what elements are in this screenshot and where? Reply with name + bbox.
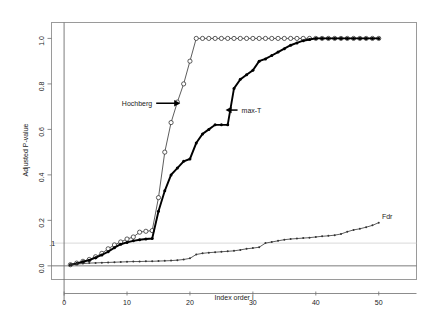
data-point-fdr — [113, 261, 115, 263]
data-point-fdr — [233, 250, 235, 252]
data-point-fdr — [139, 261, 141, 263]
data-point-fdr — [145, 260, 147, 262]
data-point-hochberg — [169, 120, 173, 124]
x-tick-label: 50 — [375, 299, 383, 306]
data-point-max-t — [295, 41, 298, 44]
data-point-hochberg — [226, 36, 230, 40]
x-tick-label: 0 — [62, 299, 66, 306]
data-point-max-t — [88, 259, 91, 262]
data-point-max-t — [113, 246, 116, 249]
data-point-fdr — [283, 239, 285, 241]
data-point-fdr — [334, 234, 336, 236]
data-point-hochberg — [156, 196, 160, 200]
x-axis-title: Index order i — [215, 294, 254, 301]
data-point-max-t — [138, 238, 141, 241]
data-point-fdr — [183, 258, 185, 260]
data-point-fdr — [296, 238, 298, 240]
data-point-fdr — [214, 251, 216, 253]
data-point-max-t — [270, 54, 273, 57]
data-point-fdr — [378, 222, 380, 224]
data-point-fdr — [327, 235, 329, 237]
data-point-fdr — [346, 231, 348, 233]
data-point-hochberg — [244, 36, 248, 40]
data-point-max-t — [132, 239, 135, 242]
data-point-hochberg — [289, 36, 293, 40]
data-point-max-t — [126, 241, 129, 244]
y-tick-label: 0.8 — [39, 81, 46, 91]
data-point-hochberg — [276, 36, 280, 40]
data-point-max-t — [245, 73, 248, 76]
data-point-fdr — [76, 263, 78, 265]
data-point-max-t — [188, 157, 191, 160]
data-point-max-t — [251, 69, 254, 72]
data-point-max-t — [264, 57, 267, 60]
data-point-fdr — [271, 241, 273, 243]
data-point-max-t — [94, 256, 97, 259]
data-point-max-t — [233, 87, 236, 90]
data-point-fdr — [170, 260, 172, 262]
data-series-group — [68, 36, 381, 266]
data-point-fdr — [277, 240, 279, 242]
data-point-max-t — [289, 44, 292, 47]
data-point-max-t — [346, 37, 349, 40]
data-point-max-t — [308, 38, 311, 41]
data-point-fdr — [227, 250, 229, 252]
data-point-max-t — [352, 37, 355, 40]
data-point-hochberg — [144, 229, 148, 233]
data-point-max-t — [220, 123, 223, 126]
data-point-max-t — [371, 37, 374, 40]
data-point-fdr — [126, 261, 128, 263]
y-axis-title: Adjusted P-value — [22, 123, 30, 176]
data-point-fdr — [95, 262, 97, 264]
data-point-hochberg — [182, 82, 186, 86]
data-point-max-t — [321, 37, 324, 40]
data-point-fdr — [239, 249, 241, 251]
data-point-max-t — [201, 132, 204, 135]
y-tick-label: 0.2 — [39, 218, 46, 228]
data-point-fdr — [107, 261, 109, 263]
data-point-max-t — [170, 173, 173, 176]
data-point-fdr — [258, 246, 260, 248]
data-point-fdr — [157, 260, 159, 262]
data-point-max-t — [157, 210, 160, 213]
y-tick-label: 0.6 — [39, 127, 46, 137]
series-line-hochberg — [70, 38, 378, 264]
data-point-max-t — [358, 37, 361, 40]
data-point-max-t — [207, 128, 210, 131]
data-point-max-t — [100, 253, 103, 256]
data-point-fdr — [315, 236, 317, 238]
data-point-max-t — [333, 37, 336, 40]
adjusted-pvalue-chart: .1 0.00.20.40.60.81.0 01020304050 Hochbe… — [0, 0, 437, 313]
data-point-max-t — [239, 78, 242, 81]
data-point-hochberg — [188, 59, 192, 63]
data-point-hochberg — [219, 36, 223, 40]
data-point-fdr — [264, 242, 266, 244]
data-point-max-t — [283, 47, 286, 50]
threshold-line-group: .1 — [49, 240, 416, 247]
data-point-fdr — [101, 262, 103, 264]
data-point-fdr — [353, 229, 355, 231]
data-point-fdr — [120, 261, 122, 263]
data-point-fdr — [208, 252, 210, 254]
y-axis-ticks-group: 0.00.20.40.60.81.0 — [39, 36, 52, 273]
data-point-max-t — [214, 123, 217, 126]
data-point-fdr — [246, 248, 248, 250]
data-point-hochberg — [163, 150, 167, 154]
data-point-fdr — [195, 253, 197, 255]
data-point-max-t — [226, 123, 229, 126]
x-tick-label: 40 — [312, 299, 320, 306]
data-point-fdr — [82, 263, 84, 265]
data-point-fdr — [321, 235, 323, 237]
figure-container: .1 0.00.20.40.60.81.0 01020304050 Hochbe… — [0, 0, 437, 313]
annotation-arrowhead-left — [226, 107, 232, 113]
data-point-fdr — [371, 224, 373, 226]
data-point-hochberg — [194, 36, 198, 40]
data-point-fdr — [132, 261, 134, 263]
data-point-hochberg — [251, 36, 255, 40]
y-tick-label: 0.4 — [39, 172, 46, 182]
data-point-fdr — [88, 262, 90, 264]
data-point-max-t — [327, 37, 330, 40]
data-point-max-t — [182, 160, 185, 163]
data-point-hochberg — [138, 230, 142, 234]
data-point-max-t — [151, 237, 154, 240]
